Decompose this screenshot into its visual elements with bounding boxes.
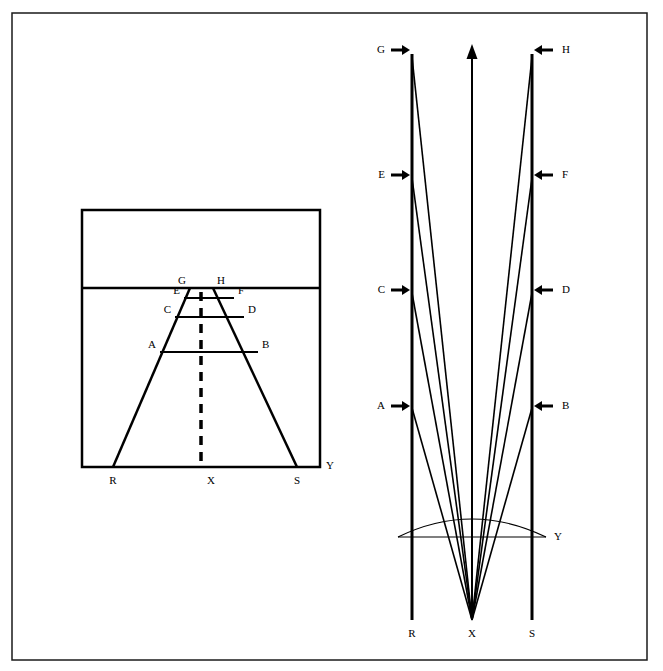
baseline-label-X: X bbox=[207, 474, 215, 486]
elevation-label-A: A bbox=[377, 399, 385, 411]
baseline-label-X: X bbox=[468, 627, 476, 639]
plan-label-C: C bbox=[164, 303, 171, 315]
elevation-label-H: H bbox=[562, 43, 570, 55]
elevation-label-D: D bbox=[562, 283, 570, 295]
baseline-label-S: S bbox=[294, 474, 300, 486]
canvas-background bbox=[0, 0, 663, 671]
elevation-label-B: B bbox=[562, 399, 569, 411]
baseline-label-R: R bbox=[109, 474, 117, 486]
baseline-label-Y: Y bbox=[326, 459, 334, 471]
figure-root: ABCDEFGH RXSY GECAHFDB RXS Y bbox=[0, 0, 663, 671]
elevation-label-C: C bbox=[378, 283, 385, 295]
lens-label-Y: Y bbox=[554, 530, 562, 542]
plan-label-F: F bbox=[238, 284, 244, 296]
plan-label-A: A bbox=[148, 338, 156, 350]
elevation-label-F: F bbox=[562, 168, 568, 180]
plan-label-H: H bbox=[217, 274, 225, 286]
elevation-label-E: E bbox=[378, 168, 385, 180]
plan-label-G: G bbox=[178, 274, 186, 286]
plan-label-D: D bbox=[248, 303, 256, 315]
baseline-label-R: R bbox=[408, 627, 416, 639]
perspective-diagram: ABCDEFGH RXSY GECAHFDB RXS Y bbox=[0, 0, 663, 671]
baseline-label-S: S bbox=[529, 627, 535, 639]
elevation-label-G: G bbox=[377, 43, 385, 55]
plan-label-B: B bbox=[262, 338, 269, 350]
